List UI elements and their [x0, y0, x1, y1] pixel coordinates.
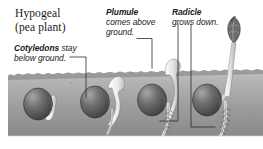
callout-radicle: Radicle grows down.	[172, 8, 218, 28]
callout-cotyledons-term: Cotyledons	[14, 43, 59, 53]
callout-cotyledons-text-1: stay	[61, 43, 76, 53]
callout-cotyledons-line-2: below ground.	[14, 54, 77, 64]
title-line-2: (pea plant)	[15, 21, 66, 35]
hypogeal-germination-figure: Hypogeal (pea plant) Cotyledons stay bel…	[0, 0, 263, 149]
callout-radicle-line-1: grows down.	[172, 18, 218, 28]
title-line-1: Hypogeal	[15, 7, 66, 21]
callout-plumule-line-2: ground.	[106, 28, 155, 38]
page-title: Hypogeal (pea plant)	[15, 7, 66, 34]
callout-plumule: Plumule comes above ground.	[106, 8, 155, 38]
label-layer: Hypogeal (pea plant) Cotyledons stay bel…	[0, 0, 263, 149]
callout-cotyledons: Cotyledons stay below ground.	[14, 44, 77, 64]
